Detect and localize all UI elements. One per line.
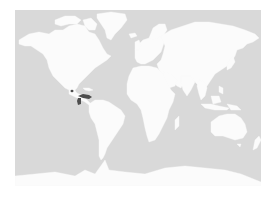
south-america [89, 100, 125, 160]
southeast-asia [197, 80, 207, 100]
greenland [97, 12, 127, 40]
world-map-svg [15, 10, 261, 186]
highlight-central-america [71, 90, 74, 92]
australia [211, 114, 247, 140]
philippines [219, 86, 223, 94]
new-guinea [227, 104, 241, 110]
cuba [83, 88, 93, 91]
iceland [129, 33, 137, 38]
madagascar [175, 116, 179, 130]
antarctica [15, 160, 261, 186]
india [181, 76, 195, 96]
world-map [15, 10, 261, 186]
highlight-colombia [77, 98, 81, 105]
new-zealand [253, 136, 261, 150]
indonesia [201, 104, 229, 110]
tasmania [237, 144, 241, 147]
europe [135, 36, 165, 64]
north-america [19, 24, 111, 94]
borneo [211, 96, 221, 104]
